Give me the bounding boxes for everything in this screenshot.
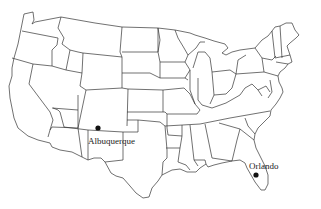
us-map: Albuquerque Orlando (0, 0, 321, 209)
city-orlando: Orlando (249, 161, 279, 178)
city-albuquerque: Albuquerque (88, 125, 135, 146)
city-label: Orlando (249, 161, 279, 171)
city-dot-icon (253, 172, 258, 177)
city-dot-icon (95, 125, 100, 130)
city-label: Albuquerque (88, 136, 135, 146)
